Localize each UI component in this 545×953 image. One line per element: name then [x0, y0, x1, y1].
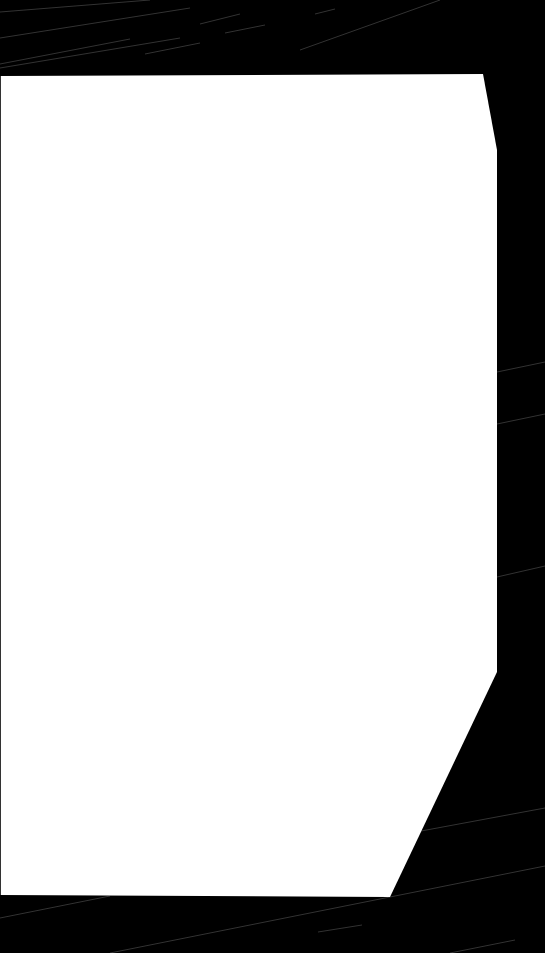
- scene: [0, 0, 545, 953]
- sheet-left-edge: [0, 76, 1, 895]
